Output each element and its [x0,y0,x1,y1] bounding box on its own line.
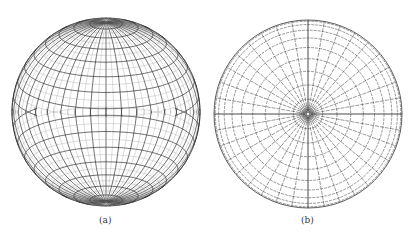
center-ring [306,112,309,115]
meridian-line [106,23,114,117]
meridian-line [106,112,198,202]
radial-line [236,116,306,174]
polar-grid-b [214,20,402,208]
radial-line [261,117,307,196]
radial-line [310,54,380,113]
radial-line [311,67,390,113]
meridian-line [14,23,106,113]
radial-line [236,54,306,113]
radial-line [310,116,369,186]
meridian-line [98,23,106,117]
radial-line [310,116,380,174]
meridian-line [14,112,106,202]
radial-line [248,116,307,186]
radial-line [310,42,369,112]
radial-line [248,42,307,112]
figure-canvas [0,0,413,237]
meridian-line [106,107,114,201]
meridian-line [98,107,106,201]
sphere-grid-a [12,18,200,206]
caption-b: (b) [301,215,314,225]
caption-a: (a) [99,215,111,225]
meridian-line [106,23,198,113]
